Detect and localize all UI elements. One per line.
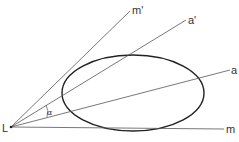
- line-a-prime: [11, 20, 186, 127]
- label-a-prime: a': [188, 14, 196, 26]
- ellipse: [62, 55, 204, 131]
- label-l: L: [2, 122, 8, 134]
- line-m-prime: [11, 11, 130, 127]
- label-m: m: [226, 123, 235, 135]
- line-a: [11, 70, 230, 127]
- label-alpha: α: [47, 108, 53, 117]
- label-a: a: [231, 64, 238, 76]
- label-m-prime: m': [132, 4, 143, 16]
- point-l: [10, 126, 13, 129]
- ellipse-tangent-diagram: L m' a' a m α: [0, 0, 239, 142]
- line-m: [11, 127, 224, 129]
